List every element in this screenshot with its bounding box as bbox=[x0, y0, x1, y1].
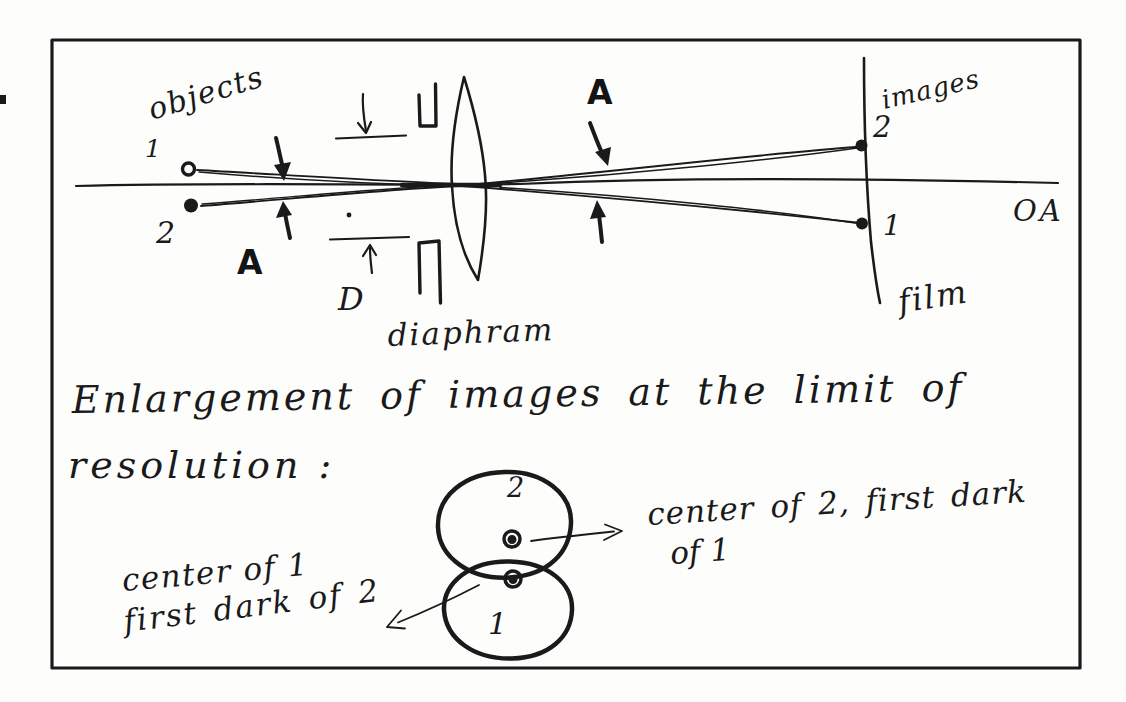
object2-point bbox=[184, 199, 198, 213]
scanned-handwritten-optics-note: objects 1 2 A A D diaphram images 2 1 fi… bbox=[0, 0, 1126, 702]
ray-to-image1-a bbox=[462, 186, 861, 223]
image2-label: 2 bbox=[872, 110, 891, 144]
angle-arrow-left-bottom-shaft bbox=[285, 213, 290, 238]
optical-axis-label: OA bbox=[1013, 194, 1064, 228]
diameter-lower-line bbox=[330, 237, 409, 240]
lens-outline bbox=[452, 77, 486, 280]
angle-arrow-right-bottom-shaft bbox=[599, 215, 602, 242]
objects-label: objects bbox=[144, 58, 268, 126]
film-label: film bbox=[893, 272, 971, 321]
bottom-circle-label: 1 bbox=[488, 606, 507, 641]
scan-edge-mark bbox=[0, 95, 6, 104]
center-of-1-dot bbox=[509, 575, 518, 584]
diaphragm-label: diaphram bbox=[387, 311, 555, 353]
angle-arrow-left-top-shaft bbox=[276, 138, 283, 168]
object1-label: 1 bbox=[145, 134, 161, 163]
object2-label: 2 bbox=[155, 215, 175, 250]
optical-axis-line bbox=[76, 179, 1058, 186]
right-note-line1: center of 2, first dark bbox=[646, 473, 1027, 532]
diameter-upper-arrow-shaft bbox=[363, 94, 366, 131]
stray-ink-dot bbox=[347, 213, 352, 218]
diaphragm-upper-bracket bbox=[419, 84, 436, 126]
caption-line1: Enlargement of images at the limit of bbox=[71, 365, 968, 422]
left-note-arrowhead bbox=[387, 611, 405, 629]
diaphragm-lower-bracket bbox=[419, 241, 441, 303]
ray-object1-upper bbox=[197, 170, 458, 184]
diameter-lower-arrow-shaft bbox=[370, 248, 372, 273]
top-circle-label: 2 bbox=[506, 472, 524, 503]
angle-arrow-right-top-head bbox=[595, 147, 611, 166]
aperture-angle-label-left: A bbox=[237, 243, 263, 282]
note-figure: objects 1 2 A A D diaphram images 2 1 fi… bbox=[0, 0, 1126, 702]
images-label: images bbox=[879, 63, 983, 115]
diameter-upper-line bbox=[336, 136, 406, 139]
left-note-arrow-shaft bbox=[398, 585, 479, 623]
angle-arrow-left-bottom-head bbox=[276, 201, 292, 218]
right-note-line2: of 1 bbox=[669, 531, 731, 571]
image1-label: 1 bbox=[883, 209, 901, 242]
caption-line2: resolution : bbox=[68, 443, 335, 487]
ray-object2-lower bbox=[201, 186, 458, 206]
object1-point bbox=[183, 163, 195, 175]
image1-point bbox=[856, 218, 868, 230]
angle-arrow-right-bottom-head bbox=[590, 200, 606, 219]
ray-to-image2-b bbox=[500, 148, 861, 184]
diameter-label: D bbox=[337, 280, 364, 318]
right-note-arrow-shaft bbox=[531, 532, 614, 542]
center-of-2-dot bbox=[508, 535, 517, 544]
aperture-angle-label-right: A bbox=[587, 73, 613, 112]
